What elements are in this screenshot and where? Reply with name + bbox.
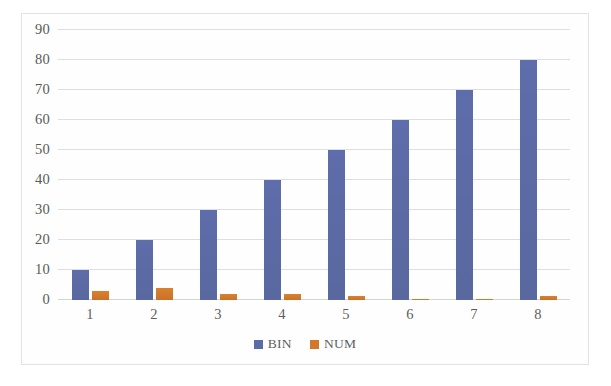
bar-group — [122, 30, 186, 300]
legend-label: BIN — [268, 336, 292, 352]
bar-num-5 — [348, 296, 365, 301]
bar-num-6 — [412, 299, 429, 300]
y-axis-tick-label: 30 — [35, 201, 50, 218]
x-axis-tick-label: 7 — [470, 306, 477, 323]
bar-group — [506, 30, 570, 300]
bar-group — [186, 30, 250, 300]
bar-bin-8 — [520, 60, 537, 300]
y-axis-tick-label: 90 — [35, 21, 50, 38]
legend-label: NUM — [324, 336, 356, 352]
bar-bin-4 — [264, 180, 281, 300]
x-axis-tick-label: 5 — [342, 306, 349, 323]
bar-bin-7 — [456, 90, 473, 300]
x-axis-tick-label: 4 — [278, 306, 285, 323]
bar-num-7 — [476, 299, 493, 300]
x-axis-tick-label: 3 — [214, 306, 221, 323]
y-axis-tick-label: 60 — [35, 111, 50, 128]
y-axis-tick-label: 80 — [35, 51, 50, 68]
bar-num-8 — [540, 296, 557, 301]
plot-area: 0102030405060708090 — [58, 30, 570, 300]
bar-group — [58, 30, 122, 300]
bar-num-3 — [220, 294, 237, 300]
bar-group — [442, 30, 506, 300]
y-axis-tick-label: 70 — [35, 81, 50, 98]
bar-bin-3 — [200, 210, 217, 300]
y-axis-tick-label: 20 — [35, 231, 50, 248]
legend-item-num[interactable]: NUM — [310, 336, 356, 352]
bar-group — [314, 30, 378, 300]
bar-num-2 — [156, 288, 173, 300]
y-axis-tick-label: 0 — [43, 291, 50, 308]
bar-bin-1 — [72, 270, 89, 300]
y-axis-tick-label: 10 — [35, 261, 50, 278]
legend-item-bin[interactable]: BIN — [254, 336, 292, 352]
bar-bin-2 — [136, 240, 153, 300]
bar-bin-6 — [392, 120, 409, 300]
chart-frame: 0102030405060708090 12345678 BINNUM — [21, 13, 589, 365]
chart-legend: BINNUM — [22, 336, 588, 352]
bar-num-1 — [92, 291, 109, 300]
bar-group — [250, 30, 314, 300]
x-axis-tick-label: 6 — [406, 306, 413, 323]
x-axis-tick-label: 8 — [534, 306, 541, 323]
y-axis-tick-label: 50 — [35, 141, 50, 158]
x-axis-tick-label: 1 — [86, 306, 93, 323]
bar-bin-5 — [328, 150, 345, 300]
x-axis-tick-label: 2 — [150, 306, 157, 323]
legend-swatch-icon — [310, 340, 319, 349]
bar-num-4 — [284, 294, 301, 300]
bars-layer — [58, 30, 570, 300]
bar-group — [378, 30, 442, 300]
y-axis-tick-label: 40 — [35, 171, 50, 188]
legend-swatch-icon — [254, 340, 263, 349]
x-axis-tick-labels: 12345678 — [58, 306, 570, 330]
